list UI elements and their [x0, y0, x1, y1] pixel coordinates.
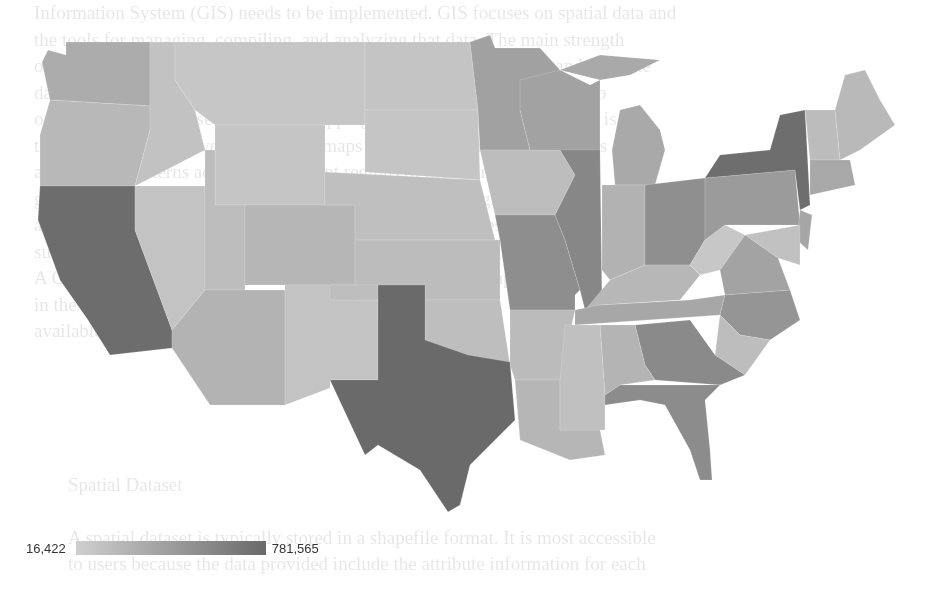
state-indiana[interactable]: [602, 185, 645, 280]
state-washington[interactable]: [42, 42, 150, 106]
state-vermont-new-hampshire[interactable]: [805, 110, 840, 160]
state-north-dakota[interactable]: [365, 42, 478, 110]
state-oregon[interactable]: [40, 100, 150, 186]
state-mississippi[interactable]: [560, 325, 605, 430]
color-scale-legend: 16,422 781,565: [26, 538, 319, 558]
state-south-dakota[interactable]: [365, 110, 480, 180]
state-southern-new-england[interactable]: [810, 160, 855, 195]
legend-gradient-bar: [76, 541, 266, 555]
state-florida[interactable]: [605, 385, 720, 480]
state-maine[interactable]: [835, 70, 895, 160]
state-colorado[interactable]: [245, 205, 355, 285]
state-ohio[interactable]: [645, 178, 705, 265]
us-choropleth-map: [0, 0, 945, 540]
state-montana[interactable]: [175, 42, 365, 125]
state-wyoming[interactable]: [215, 125, 325, 205]
legend-max-label: 781,565: [272, 541, 319, 556]
legend-min-label: 16,422: [26, 541, 66, 556]
